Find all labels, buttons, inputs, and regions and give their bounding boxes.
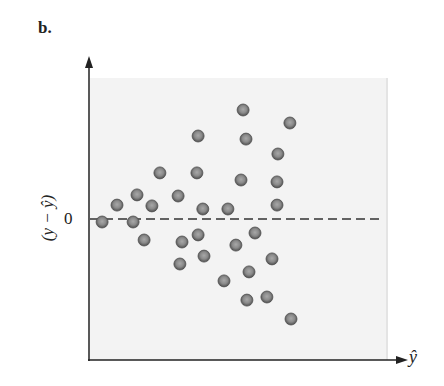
data-point [131, 189, 143, 201]
data-point [198, 250, 210, 262]
data-point [111, 199, 123, 211]
data-point [96, 216, 108, 228]
data-point [272, 148, 284, 160]
data-point [237, 104, 249, 116]
data-point [243, 266, 255, 278]
data-point [197, 203, 209, 215]
x-axis-label: ŷ [409, 347, 417, 368]
data-point [127, 216, 139, 228]
data-point [249, 227, 261, 239]
scatter-chart [0, 0, 444, 386]
data-point [218, 275, 230, 287]
data-point [138, 234, 150, 246]
data-point [271, 199, 283, 211]
data-points [96, 104, 297, 325]
data-point [235, 174, 247, 186]
data-point [271, 176, 283, 188]
data-point [191, 167, 203, 179]
data-point [285, 313, 297, 325]
data-point [261, 291, 273, 303]
data-point [176, 236, 188, 248]
y-axis-label: (y − ŷ) [38, 195, 58, 241]
x-axis-arrow-icon [396, 356, 408, 364]
data-point [230, 239, 242, 251]
y-tick-zero: 0 [64, 209, 73, 229]
data-point [174, 258, 186, 270]
data-point [266, 253, 278, 265]
data-point [192, 229, 204, 241]
data-point [222, 203, 234, 215]
data-point [192, 130, 204, 142]
data-point [240, 133, 252, 145]
data-point [146, 200, 158, 212]
data-point [172, 190, 184, 202]
y-axis-arrow-icon [85, 56, 93, 68]
data-point [241, 294, 253, 306]
data-point [284, 117, 296, 129]
data-point [154, 167, 166, 179]
